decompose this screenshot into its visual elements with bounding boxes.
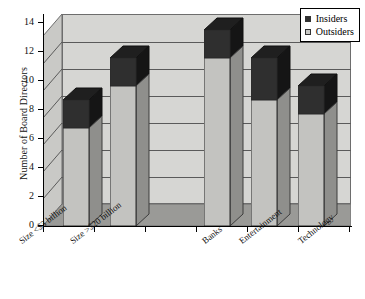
x-label-banks: Banks xyxy=(200,224,224,246)
y-tick-12 xyxy=(38,51,44,52)
y-tick-4 xyxy=(38,167,44,168)
y-tick-14 xyxy=(38,22,44,23)
legend-item-outsiders[interactable]: Outsiders xyxy=(305,25,354,38)
y-tick-label-4: 4 xyxy=(0,162,34,172)
legend-swatch-outsiders-icon xyxy=(305,29,311,35)
legend-item-insiders[interactable]: Insiders xyxy=(305,12,354,25)
plot-area xyxy=(43,14,351,226)
bar-3d-technology[interactable] xyxy=(298,14,358,226)
y-tick-10 xyxy=(38,80,44,81)
legend-label-outsiders: Outsiders xyxy=(316,25,354,38)
y-axis-line xyxy=(43,14,44,226)
y-tick-label-12: 12 xyxy=(0,46,34,56)
y-axis-title: Number of Board Directors xyxy=(18,44,29,204)
y-tick-label-8: 8 xyxy=(0,104,34,114)
x-tick-6 xyxy=(349,226,350,232)
x-tick-2 xyxy=(145,226,146,232)
x-tick-5 xyxy=(298,226,299,232)
legend-label-insiders: Insiders xyxy=(316,12,348,25)
y-tick-label-10: 10 xyxy=(0,75,34,85)
bar-3d-size-gt-20b[interactable] xyxy=(110,14,170,226)
y-tick-8 xyxy=(38,109,44,110)
chart-legend: Insiders Outsiders xyxy=(300,8,360,42)
y-tick-label-6: 6 xyxy=(0,133,34,143)
chart-container: Number of Board Directors xyxy=(0,0,365,299)
y-tick-6 xyxy=(38,138,44,139)
y-tick-2 xyxy=(38,196,44,197)
left-wall-gridlines xyxy=(43,14,63,226)
legend-swatch-insiders-icon xyxy=(305,16,311,22)
y-tick-label-14: 14 xyxy=(0,17,34,27)
y-tick-label-2: 2 xyxy=(0,191,34,201)
x-tick-3 xyxy=(196,226,197,232)
